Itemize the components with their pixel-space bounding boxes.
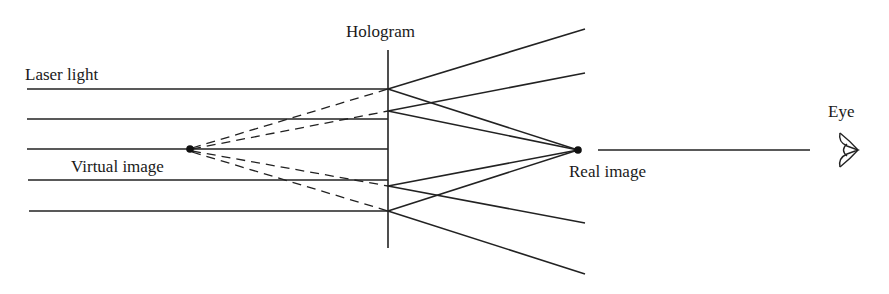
eye-icon (840, 133, 858, 167)
virtual-ray-2 (192, 111, 388, 149)
real-ray-2 (388, 111, 578, 150)
virtual-image-point (186, 145, 194, 153)
virtual-image-rays (192, 89, 388, 211)
label-virtual-image: Virtual image (71, 157, 164, 176)
virtual-ray-4 (192, 152, 388, 211)
real-ray-1 (388, 89, 578, 150)
real-image-point (574, 146, 582, 154)
label-real-image: Real image (569, 162, 646, 181)
label-eye: Eye (828, 102, 854, 121)
diffracted-rays (388, 29, 585, 274)
diffracted-ray-4 (388, 211, 585, 274)
diffracted-ray-3 (388, 186, 585, 223)
label-laser-light: Laser light (25, 65, 98, 84)
real-image-rays (388, 89, 578, 211)
hologram-diagram: Hologram Laser light Virtual image Real … (0, 0, 889, 294)
laser-beams (27, 89, 388, 211)
label-hologram: Hologram (346, 22, 415, 41)
diffracted-ray-1 (388, 29, 585, 89)
diffracted-ray-2 (388, 73, 585, 111)
